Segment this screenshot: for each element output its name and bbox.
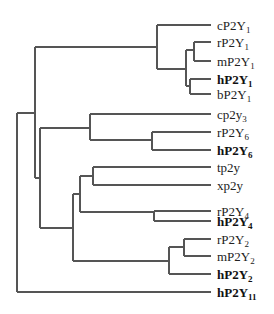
leaf-label: hP2Y11 [217, 285, 257, 302]
leaf-label: hP2Y6 [217, 143, 253, 160]
leaf-label: mP2Y1 [217, 54, 255, 71]
leaf-label: rP2Y1 [217, 35, 249, 52]
leaf-label: xp2y [217, 178, 244, 193]
leaf-label: mP2Y2 [217, 249, 255, 266]
phylogenetic-tree: cP2Y1rP2Y1mP2Y1hP2Y1bP2Y1cp2y3rP2Y6hP2Y6… [0, 0, 274, 314]
leaf-label: cP2Y1 [217, 18, 250, 35]
leaf-label: hP2Y4 [217, 214, 253, 231]
leaf-label: rP2Y2 [217, 232, 249, 249]
leaf-label: rP2Y6 [217, 125, 249, 142]
leaf-label: tp2y [217, 160, 241, 175]
tree-branches [17, 25, 211, 292]
leaf-label: hP2Y2 [217, 267, 253, 284]
leaf-label: cp2y3 [217, 107, 247, 124]
leaf-labels: cP2Y1rP2Y1mP2Y1hP2Y1bP2Y1cp2y3rP2Y6hP2Y6… [217, 18, 257, 302]
leaf-label: bP2Y1 [217, 87, 251, 104]
